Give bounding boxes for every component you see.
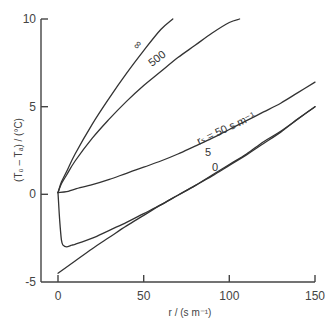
chart: 10 5 0 -5 0 50 100 150 r / (s m⁻¹) (T₀ –… xyxy=(0,0,335,322)
y-tick-label-10: 10 xyxy=(23,12,37,26)
label-500: 500 xyxy=(146,48,168,69)
label-rs50: rₛ = 50 s m⁻¹ xyxy=(195,109,257,147)
curve-4 xyxy=(58,107,315,274)
label-infinity: ∞ xyxy=(130,38,144,51)
y-tick-label-5: 5 xyxy=(29,100,36,114)
x-axis-title: r / (s m⁻¹) xyxy=(169,307,212,318)
y-tick-label-0: 0 xyxy=(29,187,36,201)
curve-2 xyxy=(58,82,315,193)
curve-3 xyxy=(58,107,315,247)
curve-0 xyxy=(58,19,173,193)
y-axis-title: (T₀ – Tₐ) / (°C) xyxy=(13,118,24,182)
x-tick-label-100: 100 xyxy=(219,289,239,303)
label-0: 0 xyxy=(212,161,218,173)
x-tick-label-150: 150 xyxy=(305,289,325,303)
y-tick-label-minus5: -5 xyxy=(25,275,36,289)
curves xyxy=(58,19,315,273)
label-5: 5 xyxy=(205,146,211,158)
x-tick-label-0: 0 xyxy=(55,289,62,303)
x-tick-label-50: 50 xyxy=(137,289,151,303)
